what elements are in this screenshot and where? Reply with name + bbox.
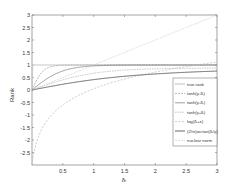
x-tick-label: 1	[92, 168, 95, 174]
x-tick-label: 2.5	[182, 168, 190, 174]
y-tick-label: -1.5	[21, 125, 30, 131]
y-tick-label: 2.5	[22, 25, 30, 31]
y-tick-label: 1.5	[22, 50, 30, 56]
y-tick-label: -2.5	[21, 150, 30, 156]
chart: 32.521.510.50-0.5-1-1.5-2-2.50.511.522.5…	[0, 0, 228, 194]
legend-entry: (2/π)arctan(δᵢ/γ)	[187, 129, 218, 134]
legend-entry: tanh(γ₂δᵢ)	[187, 100, 206, 105]
y-tick-label: 3	[27, 12, 30, 18]
x-tick-label: 1.5	[121, 168, 129, 174]
y-tick-label: -0.5	[21, 100, 30, 106]
x-tick-label: 2	[154, 168, 157, 174]
y-axis-label: Rank	[9, 87, 15, 102]
legend-entry: nuclear norm	[187, 138, 212, 143]
legend-entry: tanh(γ₃δᵢ)	[187, 110, 206, 115]
y-tick-label: -1	[25, 112, 30, 118]
y-tick-label: 0.5	[22, 75, 30, 81]
legend-entry: true rank	[187, 82, 205, 87]
x-tick-label: 0.5	[59, 168, 67, 174]
y-tick-label: -2	[25, 137, 30, 143]
y-tick-label: 0	[27, 87, 30, 93]
x-tick-label: 3	[215, 168, 218, 174]
legend-entry: log(δᵢ+ε)	[187, 119, 204, 124]
y-tick-label: 1	[27, 62, 30, 68]
x-axis-label: δᵢ	[122, 177, 126, 183]
legend-entry: tanh(γ₁δᵢ)	[187, 91, 205, 96]
y-tick-label: 2	[27, 37, 30, 43]
